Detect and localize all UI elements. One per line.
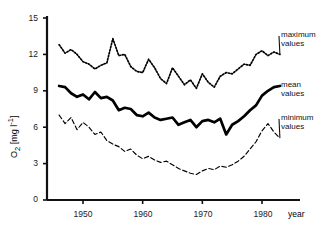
axes-group <box>43 16 300 204</box>
chart-figure: O2 [mg l-1] 15 12 9 6 3 0 1950 1960 1970… <box>0 0 333 239</box>
series-line-minimum <box>59 115 280 174</box>
series-line-maximum <box>59 39 280 89</box>
series-line-mean <box>59 86 280 135</box>
series-group <box>59 36 280 175</box>
leader-maximum <box>279 36 280 54</box>
plot-area <box>0 0 333 239</box>
leader-minimum <box>279 119 280 138</box>
